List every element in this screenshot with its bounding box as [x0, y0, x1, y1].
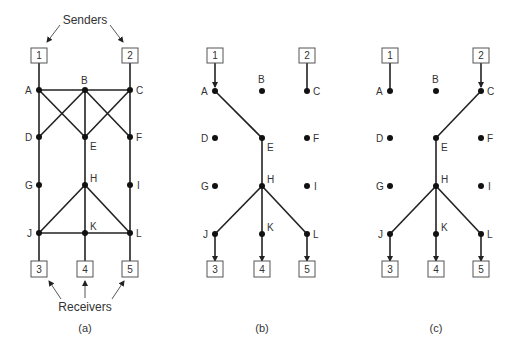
svg-text:4: 4 [259, 264, 265, 275]
panel-a-node-labels: A B C D E F G H I J K L [25, 75, 143, 239]
svg-text:K: K [441, 222, 448, 233]
svg-text:1: 1 [387, 50, 393, 61]
svg-text:E: E [90, 141, 97, 152]
svg-text:B: B [432, 74, 439, 85]
svg-text:H: H [90, 173, 97, 184]
multicast-diagram: 1 2 3 4 5 A B C D E F G H I J K L Sender… [0, 0, 517, 352]
panel-c-node-labels: A B C D E F G H I J K L [376, 74, 494, 240]
svg-text:C: C [487, 86, 494, 97]
svg-text:A: A [201, 86, 208, 97]
svg-text:G: G [25, 180, 33, 191]
panel-b-nodes [212, 88, 310, 237]
svg-text:2: 2 [304, 50, 310, 61]
svg-text:L: L [487, 229, 493, 240]
svg-text:L: L [136, 228, 142, 239]
receivers-label: Receivers [58, 300, 111, 314]
svg-text:F: F [487, 133, 493, 144]
svg-text:K: K [267, 222, 274, 233]
svg-text:1: 1 [36, 50, 42, 61]
svg-text:G: G [376, 181, 384, 192]
svg-text:D: D [201, 133, 208, 144]
svg-text:2: 2 [127, 50, 133, 61]
svg-text:A: A [376, 86, 383, 97]
svg-text:E: E [441, 142, 448, 153]
svg-text:5: 5 [478, 264, 484, 275]
svg-text:4: 4 [82, 264, 88, 275]
panel-b-node-labels: A B C D E F G H I J K L [201, 74, 320, 240]
svg-text:B: B [258, 74, 265, 85]
svg-text:A: A [25, 85, 32, 96]
svg-text:3: 3 [212, 264, 218, 275]
svg-text:I: I [488, 181, 491, 192]
svg-text:J: J [203, 229, 208, 240]
svg-text:B: B [81, 75, 88, 86]
svg-text:J: J [27, 228, 32, 239]
svg-text:J: J [378, 229, 383, 240]
svg-text:I: I [137, 180, 140, 191]
svg-text:D: D [376, 133, 383, 144]
svg-text:I: I [314, 181, 317, 192]
svg-text:3: 3 [387, 264, 393, 275]
senders-label: Senders [63, 13, 108, 27]
receivers-arrows [49, 281, 124, 299]
svg-text:G: G [201, 181, 209, 192]
caption-c: (c) [430, 322, 443, 334]
senders-arrows [47, 25, 123, 42]
svg-text:C: C [313, 86, 320, 97]
svg-text:4: 4 [433, 264, 439, 275]
caption-b: (b) [255, 322, 268, 334]
svg-text:H: H [441, 174, 448, 185]
caption-a: (a) [78, 322, 91, 334]
svg-text:D: D [25, 132, 32, 143]
svg-text:H: H [267, 174, 274, 185]
svg-text:5: 5 [127, 264, 133, 275]
svg-text:F: F [136, 132, 142, 143]
svg-text:1: 1 [212, 50, 218, 61]
svg-text:L: L [313, 229, 319, 240]
svg-text:3: 3 [36, 264, 42, 275]
svg-text:E: E [267, 142, 274, 153]
svg-text:K: K [90, 221, 97, 232]
svg-text:5: 5 [304, 264, 310, 275]
svg-text:F: F [313, 133, 319, 144]
svg-text:C: C [136, 85, 143, 96]
svg-text:2: 2 [478, 50, 484, 61]
